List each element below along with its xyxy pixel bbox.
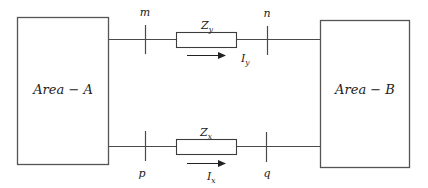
arrow-right-icon	[218, 160, 226, 167]
tie-line-bottom: p q Zx Ix	[109, 126, 321, 185]
area-b: Area − B	[321, 21, 410, 168]
impedance-zx-label: Zx	[199, 126, 213, 141]
arrow-right-icon	[218, 52, 226, 59]
impedance-zx-box	[177, 140, 237, 155]
impedance-zy-label: Zy	[200, 19, 214, 34]
impedance-zy-box	[177, 33, 237, 48]
area-a-label: Area − A	[32, 82, 93, 97]
area-a: Area − A	[18, 18, 109, 165]
node-n-label: n	[263, 7, 270, 20]
node-p-label: p	[138, 167, 145, 180]
node-q-label: q	[263, 167, 270, 180]
two-area-diagram: Area − A Area − B m n Zy Iy p q Zx Ix	[0, 0, 428, 188]
area-b-label: Area − B	[334, 82, 395, 97]
tie-line-top: m n Zy Iy	[109, 6, 321, 67]
node-m-label: m	[140, 6, 150, 19]
current-ix-label: Ix	[206, 170, 216, 185]
current-iy-label: Iy	[240, 52, 250, 67]
